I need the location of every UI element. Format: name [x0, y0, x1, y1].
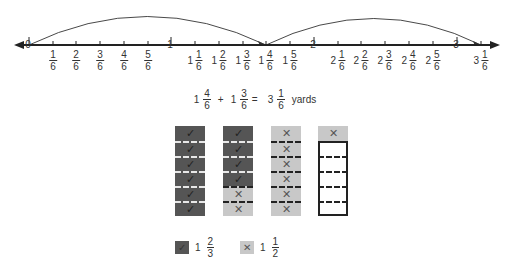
- tick-label: 236: [377, 49, 392, 72]
- addend-1-fraction: 4 6: [203, 88, 211, 111]
- equation: 1 4 6 + 1 3 6 = 3 1 6 yards: [0, 88, 510, 111]
- tick-label: 216: [330, 49, 345, 72]
- tick-fraction: 36: [385, 49, 393, 72]
- denominator: 6: [72, 61, 80, 72]
- sum-whole: 3: [268, 94, 274, 105]
- denominator: 6: [203, 100, 211, 111]
- plus-sign: +: [218, 94, 224, 105]
- numerator: 3: [243, 49, 251, 61]
- tick-whole: 1: [258, 55, 264, 66]
- tick-fraction: 16: [481, 49, 489, 72]
- addend-1-whole: 1: [194, 94, 200, 105]
- denominator: 2: [272, 248, 280, 259]
- cross-icon: ✕: [318, 126, 348, 141]
- empty-cell: [318, 186, 348, 201]
- numerator: 2: [72, 49, 80, 61]
- denominator: 6: [338, 61, 346, 72]
- tick-fraction: 46: [266, 49, 274, 72]
- check-icon: ✓: [175, 141, 205, 156]
- denominator: 6: [481, 61, 489, 72]
- tick-label: 3: [453, 49, 461, 50]
- numerator: 4: [266, 49, 274, 61]
- denominator: 6: [266, 61, 274, 72]
- tick-whole: 1: [282, 55, 288, 66]
- check-icon: ✓: [175, 126, 205, 141]
- tick-label: 226: [353, 49, 368, 72]
- empty-cell: [318, 156, 348, 171]
- check-icon: ✓: [223, 141, 253, 156]
- denominator: 6: [361, 61, 369, 72]
- tick-fraction: 16: [49, 49, 57, 72]
- numerator: 4: [409, 49, 417, 61]
- fraction-bar-3: ✕✕✕✕✕✕: [271, 126, 301, 216]
- tick-label: 316: [473, 49, 488, 72]
- jump-arc-2: [266, 19, 481, 46]
- cross-icon: ✕: [271, 171, 301, 186]
- numerator: 3: [240, 88, 248, 100]
- tick-fraction: 46: [120, 49, 128, 72]
- denominator: 6: [290, 61, 298, 72]
- equals-sign: =: [252, 94, 258, 105]
- tick-label: 256: [425, 49, 440, 72]
- denominator: 6: [240, 100, 248, 111]
- cross-icon: ✕: [223, 186, 253, 201]
- tick-label: 146: [258, 49, 273, 72]
- check-icon: ✓: [175, 171, 205, 186]
- denominator: 6: [243, 61, 251, 72]
- numerator: 1: [195, 49, 203, 61]
- tick-whole: 2: [310, 39, 316, 50]
- legend-item-cross: ✕ 1 1 2: [240, 236, 279, 259]
- denominator: 3: [207, 248, 215, 259]
- numerator: 4: [203, 88, 211, 100]
- check-icon: ✓: [175, 156, 205, 171]
- tick-label: 1: [167, 49, 175, 50]
- tick-label: 46: [120, 49, 128, 72]
- tick-whole: 2: [330, 55, 336, 66]
- tick-label: 246: [401, 49, 416, 72]
- empty-cell: [318, 141, 348, 156]
- numerator: 2: [361, 49, 369, 61]
- denominator: 6: [433, 61, 441, 72]
- empty-cell: [318, 201, 348, 216]
- denominator: 6: [219, 61, 227, 72]
- tick-label: 156: [282, 49, 297, 72]
- numerator: 5: [290, 49, 298, 61]
- tick-fraction: 36: [96, 49, 104, 72]
- denominator: 6: [96, 61, 104, 72]
- denominator: 6: [144, 61, 152, 72]
- numerator: 1: [49, 49, 57, 61]
- tick-fraction: 56: [290, 49, 298, 72]
- tick-label: 116: [187, 49, 202, 72]
- tick-fraction: 16: [338, 49, 346, 72]
- empty-cell: [318, 171, 348, 186]
- tick-whole: 2: [353, 55, 359, 66]
- cross-icon: ✕: [271, 201, 301, 216]
- legend-fraction: 1 2: [272, 236, 280, 259]
- tick-whole: 3: [473, 55, 479, 66]
- numerator: 1: [277, 88, 285, 100]
- tick-label: 136: [235, 49, 250, 72]
- legend-whole: 1: [260, 242, 266, 253]
- check-icon: ✓: [223, 126, 253, 141]
- tick-fraction: 26: [219, 49, 227, 72]
- addend-2-whole: 1: [231, 94, 237, 105]
- cross-icon: ✕: [240, 241, 254, 254]
- denominator: 6: [385, 61, 393, 72]
- cross-icon: ✕: [271, 141, 301, 156]
- fraction-bar-2: ✓✓✓✓✕✕: [223, 126, 253, 216]
- numerator: 1: [338, 49, 346, 61]
- legend-item-check: ✓ 1 2 3: [175, 236, 214, 259]
- fraction-bar-4: ✕: [318, 126, 348, 216]
- legend-whole: 1: [195, 242, 201, 253]
- legend-fraction: 2 3: [207, 236, 215, 259]
- tick-whole: 1: [187, 55, 193, 66]
- tick-fraction: 26: [72, 49, 80, 72]
- numerator: 5: [144, 49, 152, 61]
- tick-label: 26: [72, 49, 80, 72]
- left-arrow-icon: [14, 41, 24, 49]
- numerator: 3: [96, 49, 104, 61]
- jump-arc-1: [29, 17, 266, 46]
- tick-fraction: 46: [409, 49, 417, 72]
- denominator: 6: [409, 61, 417, 72]
- tick-whole: 3: [453, 39, 459, 50]
